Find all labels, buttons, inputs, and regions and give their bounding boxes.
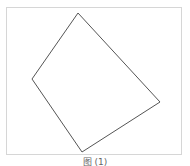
figure-caption: 图 (1) xyxy=(0,157,190,166)
quadrilateral-shape xyxy=(32,13,160,152)
quadrilateral-diagram xyxy=(0,0,190,166)
